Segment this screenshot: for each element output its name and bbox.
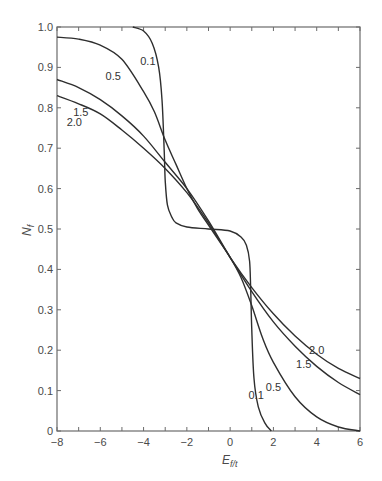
x-axis-title: Ef/t [222, 453, 238, 469]
y-tick-label: 0.8 [38, 102, 53, 114]
curve-t-0-1 [133, 27, 271, 431]
y-tick-label: 0.4 [38, 263, 53, 275]
y-tick-label: 0.9 [38, 61, 53, 73]
curve-label: 2.0 [67, 116, 82, 128]
x-tick-label: −2 [181, 436, 194, 448]
y-tick-label: 0.3 [38, 304, 53, 316]
y-tick-label: 0.1 [38, 385, 53, 397]
y-tick-label: 1.0 [38, 21, 53, 33]
x-tick-label: −4 [137, 436, 150, 448]
y-tick-label: 0.5 [38, 223, 53, 235]
x-tick-label: 0 [227, 436, 233, 448]
x-tick-label: 4 [314, 436, 320, 448]
x-tick-label: 2 [270, 436, 276, 448]
x-tick-label: −6 [94, 436, 107, 448]
x-tick-label: −8 [51, 436, 64, 448]
curve-label: 0.1 [140, 55, 155, 67]
chart: −8−6−4−2024600.10.20.30.40.50.60.70.80.9… [0, 0, 382, 481]
curves [57, 27, 360, 431]
y-tick-label: 0 [47, 425, 53, 437]
curve-label: 0.1 [248, 389, 263, 401]
y-tick-label: 0.2 [38, 344, 53, 356]
curve-label: 1.5 [296, 358, 311, 370]
curve-t-2-0 [57, 96, 360, 379]
curve-label: 0.5 [266, 381, 281, 393]
curve-label: 2.0 [309, 344, 324, 356]
y-tick-label: 0.6 [38, 183, 53, 195]
axes: −8−6−4−2024600.10.20.30.40.50.60.70.80.9… [38, 21, 363, 448]
x-tick-label: 6 [357, 436, 363, 448]
curve-label: 0.5 [106, 70, 121, 82]
curve-t-0-5 [57, 37, 360, 431]
y-axis-title: Nf [20, 223, 36, 236]
y-tick-label: 0.7 [38, 142, 53, 154]
